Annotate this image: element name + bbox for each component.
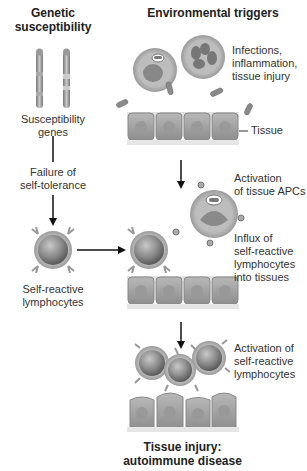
label-line: inflammation, [232, 57, 297, 70]
environmental-triggers-heading: Environmental triggers [138, 6, 288, 20]
label-line: Infections, [232, 44, 297, 57]
chromosome-icon [63, 49, 70, 109]
activated-lymphocytes-icon [135, 340, 230, 391]
label-line: into tissues [234, 271, 295, 284]
label-line: tissue injury [232, 70, 297, 83]
genetic-susceptibility-heading: Genetic susceptibility [10, 6, 96, 34]
lymphocyte-icon [32, 227, 74, 273]
apc-activation-label: Activation of tissue APCs [234, 172, 306, 198]
conclusion-line: Tissue injury: [120, 440, 245, 454]
label-line: Influx of [234, 232, 295, 245]
label-line: Failure of [5, 166, 101, 179]
tissue-label: Tissue [251, 124, 283, 137]
bacteria-icon [116, 81, 254, 115]
label-line: of tissue APCs [234, 185, 306, 198]
label-line: Self-reactive [5, 283, 101, 296]
activation-self-reactive-label: Activation of self-reactive lymphocytes [234, 342, 295, 381]
label-line: Activation [234, 172, 306, 185]
label-line: self-reactive [234, 245, 295, 258]
conclusion-line: autoimmune disease [120, 454, 245, 468]
label-line: lymphocytes [234, 368, 295, 381]
label-line: Activation of [234, 342, 295, 355]
lymphocyte-icon [128, 227, 179, 273]
tissue-icon [127, 276, 239, 309]
tissue-icon [127, 112, 239, 145]
heading-line: Genetic [10, 6, 96, 20]
failure-self-tolerance-label: Failure of self-tolerance [5, 166, 101, 192]
injured-tissue-icon [127, 393, 239, 432]
neutrophil-icon [181, 35, 225, 79]
label-line: genes [5, 126, 101, 139]
heading-line: susceptibility [10, 20, 96, 34]
tissue-injury-conclusion: Tissue injury: autoimmune disease [120, 440, 245, 468]
label-line: lymphocytes [5, 296, 101, 309]
label-line: Susceptibility [5, 113, 101, 126]
infections-label: Infections, inflammation, tissue injury [232, 44, 297, 83]
influx-label: Influx of self-reactive lymphocytes into… [234, 232, 295, 284]
self-reactive-lymphocytes-label: Self-reactive lymphocytes [5, 283, 101, 309]
chromosome-icon [36, 49, 43, 109]
label-line: lymphocytes [234, 258, 295, 271]
label-line: self-reactive [234, 355, 295, 368]
label-line: self-tolerance [5, 179, 101, 192]
susceptibility-genes-label: Susceptibility genes [5, 113, 101, 139]
